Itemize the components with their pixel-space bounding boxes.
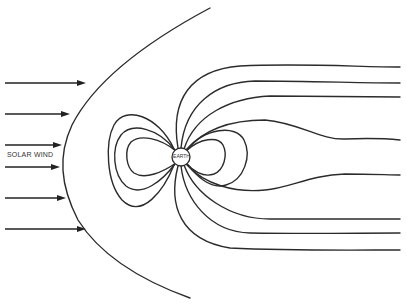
open-field-lines — [175, 65, 400, 250]
earth-label: EARTH — [172, 153, 191, 159]
open-field-line — [175, 166, 400, 250]
solar-wind-label: SOLAR WIND — [7, 151, 53, 158]
closed-field-line — [187, 130, 247, 186]
arrowhead-icon — [51, 164, 60, 170]
arrowhead-icon — [77, 80, 86, 86]
open-field-line — [186, 120, 400, 150]
solar-wind-arrow — [5, 142, 62, 148]
open-field-line — [181, 166, 400, 233]
arrowhead-icon — [61, 111, 70, 117]
solar-wind-arrow — [5, 80, 86, 86]
arrowhead-icon — [53, 142, 62, 148]
magnetosphere-diagram — [0, 0, 407, 307]
arrowhead-icon — [57, 195, 66, 201]
open-field-line — [176, 65, 400, 148]
open-field-line — [184, 96, 400, 149]
solar-wind-arrow — [5, 111, 70, 117]
solar-wind-arrow — [5, 164, 60, 170]
solar-wind-arrow — [5, 226, 86, 232]
solar-wind-arrow — [5, 195, 66, 201]
